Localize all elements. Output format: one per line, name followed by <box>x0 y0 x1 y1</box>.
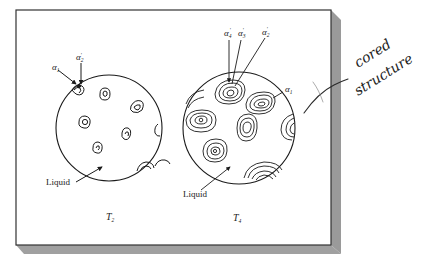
microstructure-diagram: α1 α2′ Liquid T2 <box>0 0 446 264</box>
figure-stage: α1 α2′ Liquid T2 <box>0 0 446 264</box>
liquid-label-right: Liquid <box>183 189 207 199</box>
liquid-label-left: Liquid <box>46 177 70 187</box>
card-face <box>16 10 331 245</box>
alpha4prime-label-right: α4′ <box>224 27 232 39</box>
